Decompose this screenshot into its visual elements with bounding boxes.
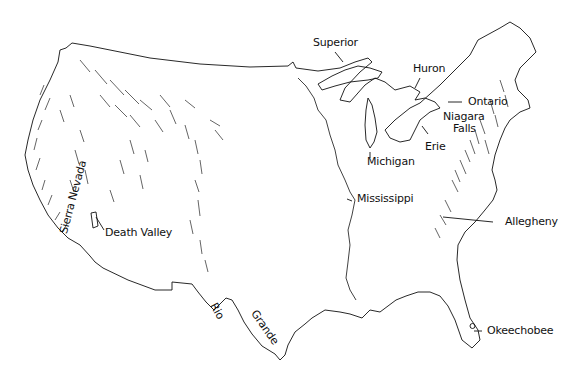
label-falls: Falls: [453, 123, 476, 135]
label-huron: Huron: [413, 63, 445, 75]
death-valley-marker: [91, 212, 98, 228]
label-allegheny: Allegheny: [505, 216, 558, 228]
leader-lines: [96, 52, 493, 331]
label-death-valley: Death Valley: [105, 227, 172, 239]
lake-michigan: [365, 98, 377, 148]
label-mississippi: Mississippi: [357, 193, 413, 205]
label-superior: Superior: [313, 37, 358, 49]
okeechobee-lake: [470, 324, 475, 329]
label-michigan: Michigan: [367, 156, 415, 168]
label-erie: Erie: [425, 141, 446, 153]
mountain-hatching: [34, 60, 508, 272]
label-okeechobee: Okeechobee: [487, 325, 553, 337]
us-outline: [25, 22, 536, 360]
mississippi-river: [298, 78, 356, 300]
label-ontario: Ontario: [468, 96, 508, 108]
